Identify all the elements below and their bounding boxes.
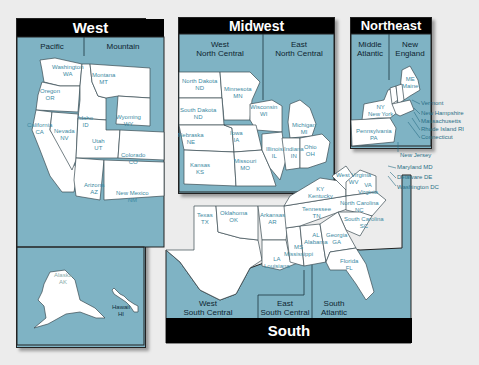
label-sd: South DakotaND (180, 107, 216, 120)
label-ut: UtahUT (92, 138, 105, 151)
callout-massachusetts: Massachusetts (421, 118, 461, 125)
label-ms: MSMississippi (284, 244, 313, 257)
label-al: ALAlabama (304, 232, 328, 245)
label-nm: New MexicoNM (116, 190, 149, 203)
callout-new-jersey: New Jersey (400, 152, 431, 159)
division-new-england: New England (390, 40, 430, 58)
label-mn: MinnesotaMN (224, 86, 252, 99)
label-ga: GeorgiaGA (326, 232, 347, 245)
label-or: OregonOR (40, 88, 60, 101)
division-mountain: Mountain (96, 42, 150, 51)
label-hi: HawaiiHI (112, 304, 130, 317)
label-la: LALouisiana (264, 256, 290, 269)
label-nd: North DakotaND (182, 78, 217, 91)
label-nc: North CarolinaNC (340, 200, 379, 213)
label-oh: OhioOH (304, 144, 317, 157)
label-fl: FloridaFL (340, 258, 358, 271)
label-mo: MissouriMO (234, 158, 256, 171)
south-title: South (166, 322, 412, 340)
callout-maryland: Maryland MD (397, 164, 433, 171)
division-pacific: Pacific (30, 42, 74, 51)
callout-connecticut: Connecticut (421, 134, 453, 141)
label-id: IdahoID (78, 115, 93, 128)
label-il: IllinoisIL (266, 146, 283, 159)
label-ok: OklahomaOK (220, 210, 247, 223)
label-wi: WisconsinWI (250, 104, 277, 117)
label-tn: TennesseeTN (302, 206, 331, 219)
label-wa: WashingtonWA (52, 64, 83, 77)
callout-new-hampshire: New Hampshire (421, 110, 464, 117)
label-mi: MichiganMI (292, 122, 316, 135)
callout-washington-dc: Washington DC (397, 184, 439, 191)
label-in: IndianaIN (284, 146, 304, 159)
label-az: ArizonaAZ (84, 182, 104, 195)
label-tx: TexasTX (197, 212, 213, 225)
label-mt: MontanaMT (92, 72, 115, 85)
label-ak: AlaskaAK (54, 272, 72, 285)
label-ks: KansasKS (190, 162, 210, 175)
label-sc: South CarolinaSC (344, 216, 384, 229)
division-east-south-central: East South Central (258, 299, 312, 317)
label-ca: CaliforniaCA (27, 122, 52, 135)
division-south-atlantic: South Atlantic (314, 299, 354, 317)
division-west-south-central: West South Central (176, 299, 240, 317)
label-ar: ArkansasAR (260, 212, 285, 225)
callout-vermont: Vermont (421, 100, 443, 107)
label-ky: KYKentucky (308, 186, 333, 199)
label-co: ColoradoCO (121, 152, 145, 165)
callout-rhode-island: Rhode Island RI (421, 126, 464, 133)
division-east-north-central: East North Central (268, 40, 330, 58)
label-va: VAVirginia (358, 182, 378, 195)
label-ne: NebraskaNE (178, 132, 204, 145)
label-nv: NevadaNV (54, 128, 75, 141)
label-ny: NYNew York (368, 104, 393, 117)
division-middle-atlantic: Middle Atlantic (352, 40, 388, 58)
callout-delaware: Delaware DE (397, 174, 432, 181)
label-ia: IowaIA (230, 130, 243, 143)
division-west-north-central: West North Central (190, 40, 250, 58)
label-pa: PennsylvaniaPA (356, 128, 392, 141)
label-me: MEMaine (402, 76, 418, 89)
label-wy: WyomingWY (116, 114, 141, 127)
